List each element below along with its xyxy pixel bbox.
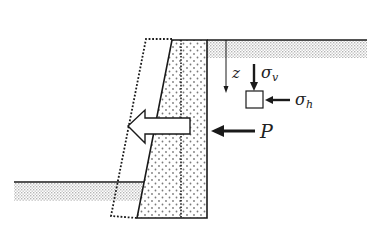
- resultant-force-label: P: [259, 120, 274, 142]
- depth-label: z: [231, 64, 240, 82]
- retaining-wall-diagram: z σv σh P: [0, 0, 379, 244]
- resultant-force-arrowhead-icon: [211, 125, 224, 137]
- backfill-soil-band: [207, 40, 367, 58]
- vertical-stress-arrowhead-icon: [250, 82, 258, 91]
- horizontal-stress-label: σh: [295, 90, 313, 111]
- vertical-stress-label: σv: [261, 63, 279, 84]
- horizontal-stress-arrowhead-icon: [265, 96, 273, 104]
- depth-arrowhead-icon: [224, 86, 229, 93]
- front-soil-band: [14, 183, 142, 201]
- soil-element: [246, 91, 263, 108]
